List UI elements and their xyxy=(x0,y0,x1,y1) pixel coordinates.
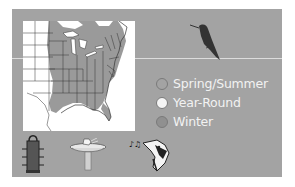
hummingbird-silhouette-icon xyxy=(190,22,222,62)
birdbath-icon xyxy=(69,138,107,172)
us-map-graphic xyxy=(23,21,135,131)
swatch-spring-summer xyxy=(156,78,168,90)
legend-item-spring-summer: Spring/Summer xyxy=(156,74,268,93)
legend-label: Year-Round xyxy=(173,95,241,110)
legend-label: Spring/Summer xyxy=(173,76,268,91)
legend-label: Winter xyxy=(173,114,213,129)
legend-item-year-round: Year-Round xyxy=(156,93,268,112)
legend-item-winter: Winter xyxy=(156,112,268,131)
swatch-year-round xyxy=(156,97,168,109)
range-map-panel: Spring/Summer Year-Round Winter ♪♫ xyxy=(12,9,282,177)
range-map xyxy=(23,21,135,131)
singing-bird-head-icon: ♪♫ xyxy=(129,137,173,173)
legend: Spring/Summer Year-Round Winter xyxy=(156,74,268,131)
swatch-winter xyxy=(156,116,168,128)
tube-feeder-icon xyxy=(22,133,44,175)
svg-text:♪♫: ♪♫ xyxy=(129,140,141,149)
